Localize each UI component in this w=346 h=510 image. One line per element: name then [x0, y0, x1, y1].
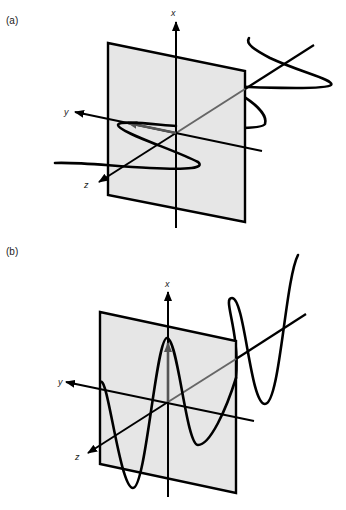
- y-axis-label-a: y: [63, 107, 69, 117]
- y-axis-label-b: y: [57, 377, 63, 387]
- panel-a: (a) x y z: [6, 8, 331, 228]
- z-axis-label-a: z: [83, 180, 89, 190]
- figure-canvas: (a) x y z (b) x: [0, 0, 346, 510]
- z-axis-label-b: z: [74, 452, 80, 462]
- panel-a-label: (a): [6, 15, 18, 26]
- x-axis-label-b: x: [164, 279, 170, 289]
- z-axis-back: [245, 45, 314, 89]
- panel-b-label: (b): [6, 246, 18, 257]
- sine-wave-back: [229, 255, 298, 404]
- x-axis-label-a: x: [170, 8, 176, 18]
- panel-b: (b) x y z: [6, 246, 306, 497]
- z-axis-back-b: [236, 314, 306, 359]
